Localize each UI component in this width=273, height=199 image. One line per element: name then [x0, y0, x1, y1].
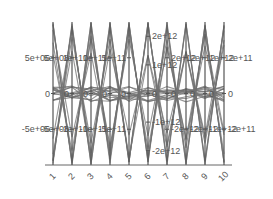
category-label: 9	[199, 171, 210, 182]
category-label: 2	[66, 171, 77, 182]
category-label: 7	[161, 171, 172, 182]
tick-label: 0	[228, 89, 233, 99]
data-lines	[53, 23, 224, 165]
tick-label: 0	[45, 89, 50, 99]
tick-label: 0	[171, 89, 176, 99]
tick-label: 0	[83, 89, 88, 99]
tick-label: 2e+11	[228, 53, 253, 63]
tick-label: -2e+12	[152, 146, 180, 156]
category-label: 5	[123, 171, 134, 182]
tick-label: 0	[64, 89, 69, 99]
tick-label: -5e+11	[98, 124, 126, 134]
tick-label: 0	[121, 89, 126, 99]
tick-label: 2e+12	[152, 31, 177, 41]
category-label: 8	[180, 171, 191, 182]
tick-label: 0	[190, 89, 195, 99]
category-label: 3	[85, 171, 96, 182]
tick-label: 0	[209, 89, 214, 99]
category-label: 6	[142, 171, 153, 182]
parallel-coordinates-chart: 5e+060-5e+0615e+080-5e+0821e+100-1e+1031…	[0, 0, 273, 199]
tick-label: 0	[152, 89, 157, 99]
tick-label: 5e+11	[101, 53, 126, 63]
category-label: 1	[47, 171, 58, 182]
tick-label: -2e+11	[228, 124, 256, 134]
category-label: 4	[104, 171, 115, 182]
category-label: 10	[216, 169, 230, 183]
tick-label: 0	[102, 89, 107, 99]
